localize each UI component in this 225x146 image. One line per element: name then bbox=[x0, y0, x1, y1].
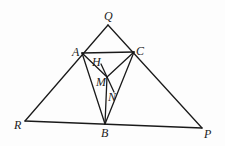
segment-QR bbox=[25, 25, 108, 121]
segment-CB bbox=[105, 52, 134, 124]
label-A: A bbox=[71, 45, 80, 59]
label-B: B bbox=[101, 126, 109, 140]
diagram-canvas: Q A C H M N R B P bbox=[0, 0, 225, 146]
segment-AC bbox=[82, 52, 134, 53]
label-P: P bbox=[203, 127, 212, 141]
label-M: M bbox=[95, 75, 107, 89]
segment-RP bbox=[25, 121, 202, 128]
label-R: R bbox=[13, 118, 22, 132]
label-C: C bbox=[136, 44, 145, 58]
label-N: N bbox=[107, 90, 117, 104]
label-Q: Q bbox=[104, 9, 113, 23]
segment-CM bbox=[107, 52, 134, 77]
geometry-diagram: Q A C H M N R B P bbox=[0, 0, 225, 146]
segment-QP bbox=[108, 25, 202, 128]
label-H: H bbox=[91, 55, 102, 69]
